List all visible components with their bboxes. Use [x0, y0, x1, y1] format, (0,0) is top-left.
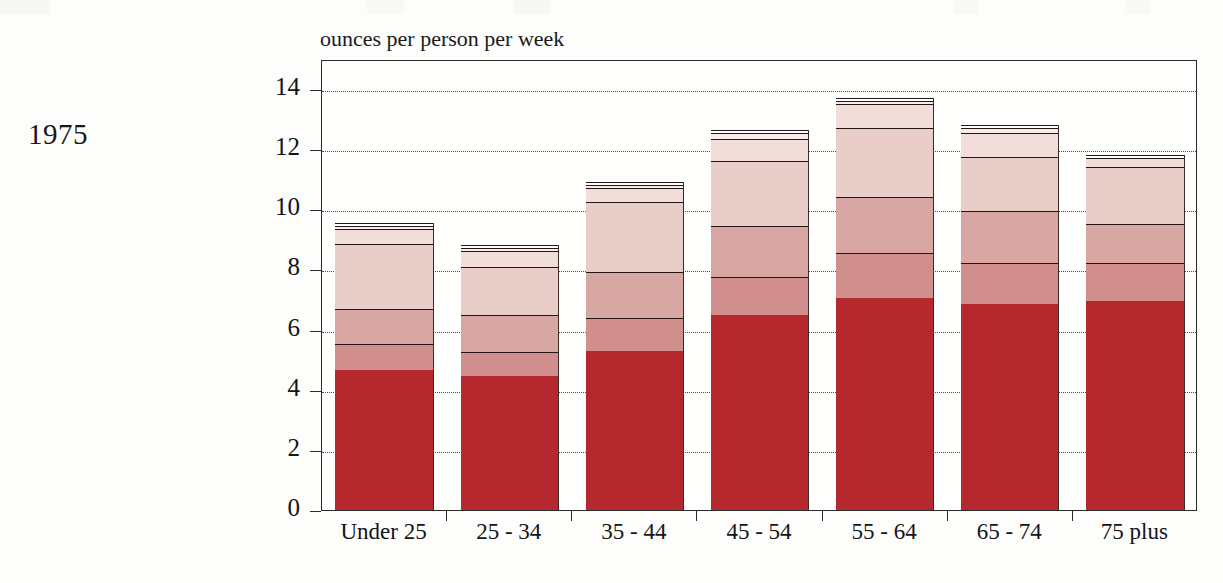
- bar-segment-segment-5: [711, 139, 809, 162]
- bar-segment-segment-1: [335, 370, 433, 510]
- bar-75-plus[interactable]: [1086, 155, 1184, 510]
- bar-segment-segment-2: [836, 253, 934, 298]
- y-tickmark-14: [310, 90, 321, 91]
- x-tick-label-75-plus: 75 plus: [1072, 519, 1197, 545]
- bar-group: [322, 61, 1196, 510]
- x-tick-label-45---54: 45 - 54: [696, 519, 821, 545]
- bar-segment-segment-7: [711, 130, 809, 133]
- y-tick-label-10: 10: [248, 193, 300, 221]
- x-tick-label-65---74: 65 - 74: [947, 519, 1072, 545]
- bar-segment-segment-1: [836, 298, 934, 510]
- y-tickmark-6: [310, 331, 321, 332]
- bar-segment-segment-6: [836, 101, 934, 104]
- bar-segment-segment-6: [461, 248, 559, 251]
- y-axis-labels: 02468101214: [0, 0, 321, 583]
- bar-segment-segment-3: [586, 272, 684, 317]
- bar-segment-segment-5: [586, 188, 684, 202]
- y-tick-label-0: 0: [248, 494, 300, 522]
- y-tick-label-12: 12: [248, 133, 300, 161]
- bar-segment-segment-5: [836, 104, 934, 128]
- bar-segment-segment-6: [711, 133, 809, 139]
- bar-segment-segment-1: [1086, 301, 1184, 510]
- bar-under-25[interactable]: [335, 223, 433, 510]
- bar-segment-segment-4: [836, 128, 934, 197]
- bar-segment-segment-4: [1086, 167, 1184, 224]
- bar-segment-segment-7: [961, 125, 1059, 128]
- bar-segment-segment-1: [711, 315, 809, 510]
- bar-segment-segment-1: [461, 376, 559, 510]
- bar-45---54[interactable]: [711, 130, 809, 510]
- x-axis-labels: Under 2525 - 3435 - 4445 - 5455 - 6465 -…: [321, 519, 1197, 559]
- plot-area: [321, 60, 1197, 511]
- y-tick-label-2: 2: [248, 434, 300, 462]
- bar-segment-segment-2: [711, 277, 809, 315]
- bar-segment-segment-4: [961, 157, 1059, 211]
- bar-segment-segment-4: [586, 202, 684, 273]
- y-tickmark-4: [310, 391, 321, 392]
- y-tickmark-2: [310, 451, 321, 452]
- bar-segment-segment-2: [586, 318, 684, 351]
- bar-segment-segment-2: [335, 344, 433, 370]
- y-tickmark-10: [310, 210, 321, 211]
- bar-segment-segment-1: [586, 351, 684, 510]
- y-tick-label-4: 4: [248, 374, 300, 402]
- bar-segment-segment-3: [335, 309, 433, 344]
- bar-segment-segment-3: [836, 197, 934, 253]
- x-tick-label-under-25: Under 25: [321, 519, 446, 545]
- bar-segment-segment-7: [461, 245, 559, 248]
- y-tick-label-14: 14: [248, 73, 300, 101]
- y-tickmark-12: [310, 150, 321, 151]
- y-tickmark-8: [310, 270, 321, 271]
- bar-segment-segment-7: [836, 98, 934, 101]
- bar-segment-segment-5: [461, 251, 559, 267]
- x-tick-label-35---44: 35 - 44: [571, 519, 696, 545]
- bar-segment-segment-3: [461, 315, 559, 352]
- bar-65---74[interactable]: [961, 125, 1059, 510]
- bar-35---44[interactable]: [586, 182, 684, 510]
- bar-segment-segment-7: [1086, 155, 1184, 158]
- bar-segment-segment-6: [335, 226, 433, 229]
- y-tick-label-8: 8: [248, 253, 300, 281]
- bar-segment-segment-4: [711, 161, 809, 226]
- bar-segment-segment-6: [961, 128, 1059, 133]
- bar-segment-segment-5: [961, 133, 1059, 157]
- bar-segment-segment-5: [335, 229, 433, 244]
- bar-segment-segment-7: [335, 223, 433, 226]
- bar-segment-segment-3: [961, 211, 1059, 264]
- bar-segment-segment-3: [711, 226, 809, 277]
- bar-25---34[interactable]: [461, 245, 559, 510]
- bar-55---64[interactable]: [836, 98, 934, 510]
- bar-segment-segment-2: [961, 263, 1059, 304]
- bar-segment-segment-4: [461, 267, 559, 315]
- bar-segment-segment-3: [1086, 224, 1184, 263]
- bar-segment-segment-6: [586, 185, 684, 188]
- x-tick-label-25---34: 25 - 34: [446, 519, 571, 545]
- bar-segment-segment-2: [461, 352, 559, 376]
- x-tick-label-55---64: 55 - 64: [822, 519, 947, 545]
- bar-segment-segment-4: [335, 244, 433, 309]
- bar-segment-segment-5: [1086, 158, 1184, 167]
- y-tick-label-6: 6: [248, 314, 300, 342]
- bar-segment-segment-1: [961, 304, 1059, 510]
- y-tickmark-0: [310, 511, 321, 512]
- bar-segment-segment-2: [1086, 263, 1184, 301]
- axis-title: ounces per person per week: [320, 26, 564, 52]
- bar-segment-segment-7: [586, 182, 684, 185]
